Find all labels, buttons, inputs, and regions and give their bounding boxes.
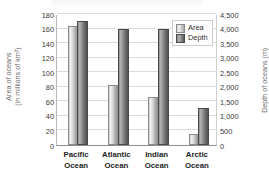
legend-item-area: Area <box>176 23 208 33</box>
chart-legend: Area Depth <box>172 20 213 46</box>
left-axis-tick-labels: 180160140120100806040200 <box>28 11 54 151</box>
legend-item-depth: Depth <box>176 33 208 43</box>
category-label-line1: Arctic <box>186 150 208 159</box>
axis-tick-label: 2,000 <box>220 83 239 92</box>
bar-depth <box>198 108 209 146</box>
axis-tick-label: 140 <box>42 40 54 49</box>
category-label: ArcticOcean <box>177 150 217 171</box>
axis-tick-label: 160 <box>42 25 54 34</box>
left-axis-title-line2: (in millions of km²) <box>14 17 23 137</box>
bar-group <box>97 15 137 145</box>
x-axis-category-labels: PacificOceanAtlanticOceanIndianOceanArct… <box>56 150 217 180</box>
ocean-area-depth-bar-chart: Area of oceans (in millions of km²) Dept… <box>0 0 269 184</box>
category-label-line1: Pacific <box>64 150 89 159</box>
category-label-line1: Indian <box>145 150 168 159</box>
legend-swatch-depth-icon <box>176 34 185 43</box>
right-axis-tick-labels: 4,5004,0003,5003,0002,5002,0001,5001,000… <box>220 11 250 151</box>
legend-label-area: Area <box>188 23 204 33</box>
left-axis-title-line1: Area of oceans <box>4 52 13 100</box>
gridline <box>57 13 216 14</box>
axis-tick-label: 0 <box>220 142 224 151</box>
category-label-line1: Atlantic <box>102 150 131 159</box>
category-label: IndianOcean <box>137 150 177 171</box>
axis-tick-label: 1,000 <box>220 112 239 121</box>
category-label: AtlanticOcean <box>96 150 136 171</box>
axis-tick-label: 500 <box>220 127 232 136</box>
axis-tick-label: 4,500 <box>220 11 239 20</box>
axis-tick-label: 100 <box>42 69 54 78</box>
bar-depth <box>158 29 169 145</box>
bar-depth <box>118 29 129 145</box>
bar-group <box>57 15 97 145</box>
axis-tick-label: 20 <box>46 127 54 136</box>
right-axis-title: Depth of oceans (m) <box>261 20 269 140</box>
cropped-title-artifact <box>52 0 202 6</box>
legend-swatch-area-icon <box>176 24 185 33</box>
axis-tick-label: 120 <box>42 54 54 63</box>
axis-tick-label: 40 <box>46 112 54 121</box>
legend-label-depth: Depth <box>188 33 208 43</box>
category-label-line2: Ocean <box>137 161 177 172</box>
category-label-line2: Ocean <box>177 161 217 172</box>
category-label-line2: Ocean <box>56 161 96 172</box>
axis-tick-label: 2,500 <box>220 69 239 78</box>
axis-tick-label: 3,000 <box>220 54 239 63</box>
left-axis-title: Area of oceans (in millions of km²) <box>5 17 22 137</box>
axis-tick-label: 180 <box>42 11 54 20</box>
bar-depth <box>77 21 88 145</box>
axis-tick-label: 80 <box>46 83 54 92</box>
axis-tick-label: 4,000 <box>220 25 239 34</box>
axis-tick-label: 3,500 <box>220 40 239 49</box>
axis-tick-label: 0 <box>50 142 54 151</box>
axis-tick-label: 60 <box>46 98 54 107</box>
category-label-line2: Ocean <box>96 161 136 172</box>
axis-tick-label: 1,500 <box>220 98 239 107</box>
category-label: PacificOcean <box>56 150 96 171</box>
